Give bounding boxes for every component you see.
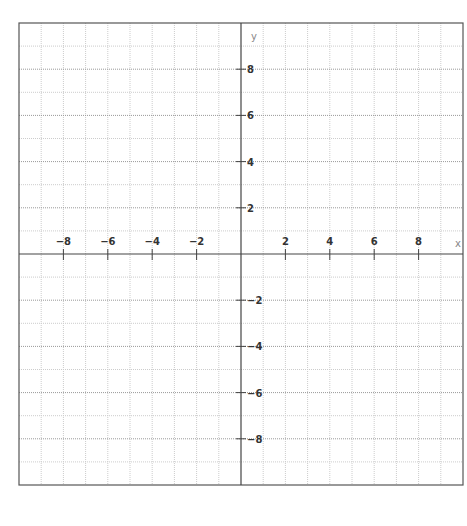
y-tick-label: 4 xyxy=(247,157,254,168)
y-tick-label: 6 xyxy=(247,110,254,121)
x-tick-label: −8 xyxy=(56,236,71,247)
y-tick-label: −2 xyxy=(247,295,262,306)
x-tick-label: 8 xyxy=(415,236,422,247)
x-tick-label: −6 xyxy=(100,236,115,247)
x-tick-label: −2 xyxy=(189,236,204,247)
y-tick-label: −6 xyxy=(247,388,262,399)
x-tick-label: 6 xyxy=(371,236,378,247)
x-axis-label: x xyxy=(455,238,461,249)
y-tick-label: −8 xyxy=(247,434,262,445)
y-tick-label: −4 xyxy=(247,341,262,352)
y-tick-label: 2 xyxy=(247,203,254,214)
y-tick-label: 8 xyxy=(247,64,254,75)
y-axis-label: y xyxy=(251,31,257,42)
coordinate-plane: −8−6−4−224688642−2−4−6−8 x y xyxy=(0,0,467,526)
x-tick-label: 2 xyxy=(282,236,289,247)
x-tick-label: 4 xyxy=(326,236,333,247)
x-tick-label: −4 xyxy=(145,236,160,247)
